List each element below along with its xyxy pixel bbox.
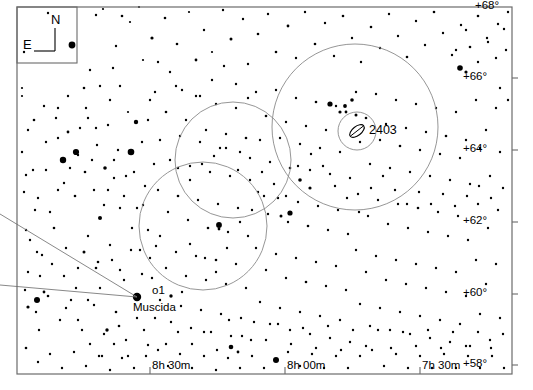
star-point bbox=[305, 125, 307, 127]
star-point bbox=[175, 251, 177, 253]
star-point bbox=[334, 185, 336, 187]
star-point bbox=[287, 25, 290, 28]
star-point bbox=[176, 43, 179, 46]
star-point bbox=[95, 14, 97, 16]
star-point bbox=[442, 193, 444, 195]
star-point bbox=[157, 61, 159, 63]
constellation-line bbox=[0, 214, 137, 297]
star-point bbox=[338, 110, 341, 113]
star-point bbox=[497, 209, 499, 211]
star-point bbox=[370, 26, 373, 29]
star-point bbox=[239, 367, 241, 369]
star-point bbox=[99, 287, 101, 289]
star-point bbox=[415, 20, 417, 22]
star-point bbox=[51, 263, 53, 265]
star-point bbox=[127, 355, 129, 357]
star-point bbox=[247, 235, 249, 237]
star-point bbox=[406, 203, 408, 205]
star-point bbox=[57, 107, 59, 109]
star-point bbox=[390, 347, 392, 349]
star-point bbox=[415, 103, 417, 105]
star-point bbox=[34, 209, 36, 211]
star-point bbox=[27, 129, 29, 131]
sky-canvas bbox=[0, 0, 533, 390]
star-point bbox=[165, 343, 167, 345]
star-point bbox=[49, 353, 51, 355]
star-point bbox=[407, 367, 409, 369]
star-point bbox=[419, 315, 421, 317]
star-point bbox=[57, 137, 59, 139]
star-point bbox=[211, 51, 213, 53]
star-point bbox=[299, 311, 301, 313]
star-point bbox=[47, 12, 49, 14]
star-point bbox=[123, 279, 125, 281]
star-point bbox=[187, 219, 189, 221]
star-point bbox=[357, 193, 359, 195]
star-point bbox=[136, 317, 138, 319]
star-point bbox=[136, 207, 138, 209]
star-point bbox=[442, 32, 444, 34]
star-point bbox=[165, 111, 168, 114]
star-point bbox=[87, 117, 89, 119]
star-point bbox=[487, 41, 489, 43]
star-point bbox=[29, 239, 31, 241]
star-point bbox=[399, 145, 402, 148]
star-point bbox=[67, 95, 69, 97]
star-point bbox=[355, 114, 358, 117]
star-point bbox=[222, 9, 224, 11]
star-point bbox=[445, 135, 448, 138]
star-point bbox=[375, 255, 377, 257]
star-point bbox=[43, 105, 45, 107]
star-point bbox=[69, 42, 76, 49]
star-point bbox=[365, 345, 367, 347]
star-point bbox=[397, 203, 399, 205]
star-point bbox=[259, 301, 261, 303]
star-point bbox=[305, 281, 308, 284]
star-point bbox=[84, 171, 87, 174]
star-point bbox=[495, 57, 497, 59]
star-point bbox=[409, 171, 411, 173]
star-point bbox=[103, 204, 105, 206]
star-point bbox=[133, 171, 135, 173]
star-point bbox=[440, 347, 442, 349]
star-point bbox=[99, 85, 101, 87]
star-point bbox=[21, 95, 23, 97]
star-point bbox=[111, 259, 113, 261]
star-point bbox=[389, 329, 391, 331]
star-point bbox=[190, 327, 192, 329]
star-point bbox=[449, 179, 451, 181]
star-point bbox=[98, 355, 100, 357]
star-point bbox=[465, 139, 467, 141]
star-point bbox=[265, 269, 267, 271]
star-point bbox=[359, 141, 361, 143]
star-point bbox=[151, 277, 153, 279]
star-point bbox=[371, 349, 373, 351]
star-point bbox=[195, 255, 197, 257]
star-point bbox=[491, 355, 493, 357]
star-point bbox=[199, 95, 201, 97]
dec-label-62: +62° bbox=[463, 215, 487, 227]
dec-label-64: +64° bbox=[463, 143, 487, 155]
star-point bbox=[459, 323, 461, 325]
star-point bbox=[263, 195, 265, 197]
star-point bbox=[218, 228, 221, 231]
star-point bbox=[63, 275, 65, 277]
star-point bbox=[195, 95, 197, 97]
star-point bbox=[142, 59, 144, 61]
star-point bbox=[149, 257, 151, 259]
star-point bbox=[285, 195, 287, 197]
star-point bbox=[335, 105, 337, 107]
star-point bbox=[141, 141, 143, 143]
star-point bbox=[240, 317, 242, 319]
star-point bbox=[261, 171, 263, 173]
star-point bbox=[377, 329, 379, 331]
star-point bbox=[507, 11, 509, 13]
star-point bbox=[370, 187, 372, 189]
bayer-superscript: 1 bbox=[158, 284, 164, 296]
star-point bbox=[249, 157, 251, 159]
star-point bbox=[228, 319, 230, 321]
star-point bbox=[335, 265, 337, 267]
star-point bbox=[327, 101, 332, 106]
star-point bbox=[425, 131, 427, 133]
star-point bbox=[23, 191, 25, 193]
